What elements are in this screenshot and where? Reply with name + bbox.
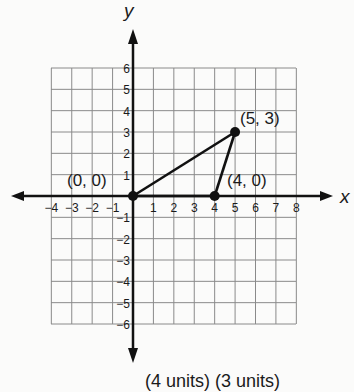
y-tick-label: 3 — [123, 126, 130, 140]
x-tick-label: 1 — [150, 201, 157, 215]
point-label-origin: (0, 0) — [67, 171, 107, 190]
x-tick-label: −4 — [44, 201, 58, 215]
point-label-5-3: (5, 3) — [240, 109, 280, 128]
y-tick-label: −6 — [116, 318, 130, 332]
triangle-segments — [133, 132, 235, 196]
x-tick-label: −3 — [65, 201, 79, 215]
x-axis-right-arrow-icon — [320, 191, 333, 201]
y-tick-label: −1 — [116, 211, 130, 225]
triangle-side — [133, 132, 235, 196]
x-tick-label: 2 — [170, 201, 177, 215]
y-tick-label: −4 — [116, 275, 130, 289]
y-tick-label: −5 — [116, 297, 130, 311]
y-tick-label: 5 — [123, 83, 130, 97]
y-axis-label: y — [122, 0, 135, 21]
x-tick-label: 3 — [191, 201, 198, 215]
point-dot — [230, 127, 240, 137]
x-tick-label: −2 — [85, 201, 99, 215]
point-dot — [210, 191, 220, 201]
y-tick-label: 4 — [123, 105, 130, 119]
x-axis-label: x — [339, 186, 351, 207]
x-axis-left-arrow-icon — [11, 191, 24, 201]
y-tick-label: −3 — [116, 254, 130, 268]
point-label-4-0: (4, 0) — [227, 171, 267, 190]
y-tick-label: 1 — [123, 169, 130, 183]
y-tick-label: 2 — [123, 147, 130, 161]
y-tick-label: −2 — [116, 233, 130, 247]
y-tick-label: 6 — [123, 62, 130, 76]
y-axis-down-arrow-icon — [128, 348, 138, 363]
x-tick-label: 4 — [211, 201, 218, 215]
x-tick-label: 7 — [273, 201, 280, 215]
x-tick-label: 5 — [232, 201, 239, 215]
point-dot — [128, 191, 138, 201]
x-tick-label: 6 — [252, 201, 259, 215]
y-axis-up-arrow-icon — [128, 29, 138, 44]
figure-caption: (4 units) (3 units) — [145, 371, 280, 392]
x-tick-label: 8 — [293, 201, 300, 215]
